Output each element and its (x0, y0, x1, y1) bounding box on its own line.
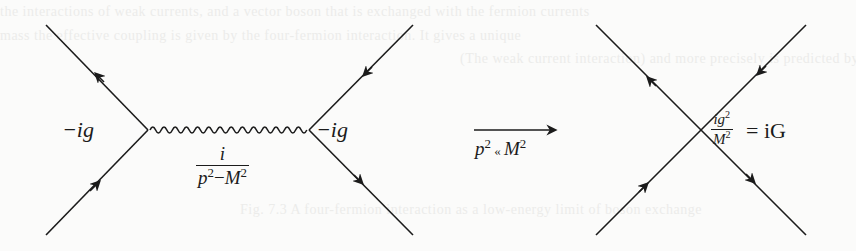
propagator-fraction: i p2−M2 (196, 144, 249, 187)
fermion-line-bottom-left (46, 130, 148, 235)
coupling-denominator: M2 (711, 129, 733, 147)
boson-propagator-wavy-line (150, 127, 307, 133)
left-exchange-diagram (46, 25, 413, 235)
fermion-line-top-right (309, 25, 413, 130)
arrow-down-left-icon (366, 67, 372, 73)
fermion-line-top-left (46, 25, 148, 130)
vertex-right-coupling-label: −ig (316, 119, 348, 141)
effective-coupling-rhs: = iG (746, 120, 786, 142)
limit-condition-label: p2 « M2 (475, 139, 526, 158)
arrow-up-right-icon (639, 186, 645, 192)
fermion-line-bottom-right (309, 130, 413, 235)
diagram-figure: the interactions of weak currents, and a… (0, 0, 856, 251)
propagator-denominator: p2−M2 (196, 165, 249, 187)
coupling-numerator: ig2 (711, 112, 732, 129)
effective-coupling-fraction: ig2 M2 (711, 112, 733, 147)
propagator-numerator: i (218, 144, 227, 165)
vertex-left-coupling-label: −ig (62, 119, 94, 141)
arrow-down-right-icon (354, 175, 360, 181)
